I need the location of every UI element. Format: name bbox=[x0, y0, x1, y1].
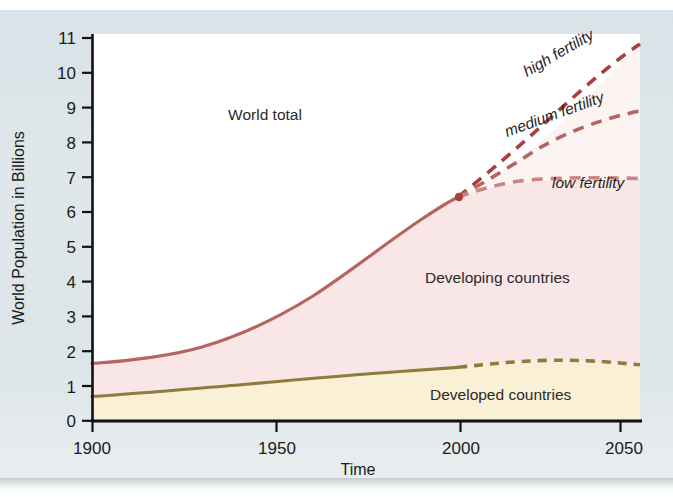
y-tick-label-8: 8 bbox=[67, 134, 76, 153]
projection-branch-point bbox=[455, 193, 463, 201]
x-tick-label-1900: 1900 bbox=[73, 439, 111, 458]
x-tick-label-2000: 2000 bbox=[442, 439, 480, 458]
y-tick-label-4: 4 bbox=[67, 273, 76, 292]
y-axis-title: World Population in Billions bbox=[10, 131, 27, 325]
x-tick-label-1950: 1950 bbox=[258, 439, 296, 458]
y-tick-label-3: 3 bbox=[67, 308, 76, 327]
y-tick-label-0: 0 bbox=[67, 412, 76, 431]
y-tick-label-6: 6 bbox=[67, 203, 76, 222]
developed-countries-label: Developed countries bbox=[430, 386, 572, 403]
y-tick-label-1: 1 bbox=[67, 378, 76, 397]
screenshot-root: 11 10 9 8 7 6 5 4 3 2 1 0 1900 1950 2000… bbox=[0, 0, 673, 497]
y-tick-label-10: 10 bbox=[57, 64, 76, 83]
population-projection-chart: 11 10 9 8 7 6 5 4 3 2 1 0 1900 1950 2000… bbox=[0, 0, 673, 497]
developing-countries-label: Developing countries bbox=[425, 269, 570, 286]
y-tick-label-11: 11 bbox=[58, 29, 76, 48]
y-tick-label-5: 5 bbox=[67, 238, 76, 257]
y-tick-label-2: 2 bbox=[67, 343, 76, 362]
x-axis-ticks bbox=[93, 421, 621, 432]
y-tick-label-7: 7 bbox=[67, 169, 76, 188]
low-fertility-label: low fertility bbox=[552, 174, 626, 191]
y-tick-label-9: 9 bbox=[67, 99, 76, 118]
x-tick-label-2050: 2050 bbox=[605, 439, 643, 458]
world-total-label: World total bbox=[228, 106, 302, 123]
x-axis-title: Time bbox=[341, 461, 376, 478]
